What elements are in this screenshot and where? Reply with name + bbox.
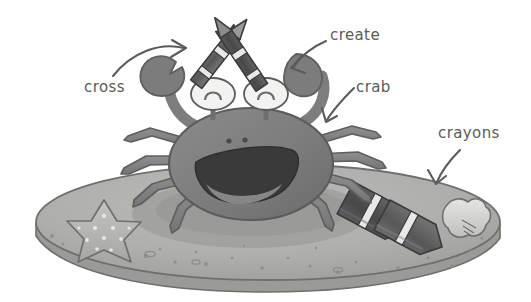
crab-illustration (0, 0, 531, 302)
crab-claw-right (284, 54, 322, 96)
seashell (443, 199, 491, 237)
illustration-canvas: cross create crab crayons (0, 0, 531, 302)
label-cross: cross (84, 78, 125, 96)
label-crayons: crayons (438, 124, 500, 142)
crossed-crayons (191, 14, 268, 91)
arrow-crayons (428, 150, 460, 184)
label-crab: crab (356, 78, 391, 96)
crab-claw-left (140, 56, 184, 96)
label-create: create (330, 26, 380, 44)
